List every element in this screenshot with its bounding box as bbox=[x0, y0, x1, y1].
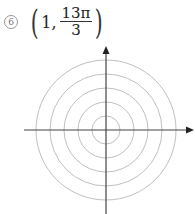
arrow-up-icon bbox=[103, 46, 110, 54]
arrow-right-icon bbox=[186, 127, 194, 134]
polar-grid bbox=[0, 0, 195, 214]
